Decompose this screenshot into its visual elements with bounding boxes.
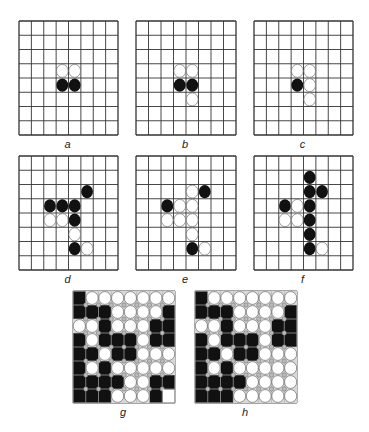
board-caption-b: b [175, 138, 195, 150]
white-stone-icon [246, 362, 258, 375]
white-stone-icon [99, 348, 111, 361]
white-stone-icon [56, 64, 68, 77]
white-stone-icon [137, 376, 149, 389]
white-stone-icon [112, 362, 124, 375]
board-grid [135, 155, 237, 271]
white-stone-icon [163, 362, 175, 375]
white-stone-icon [150, 306, 162, 319]
white-stone-icon [195, 320, 207, 333]
white-stone-icon [272, 348, 284, 361]
white-stone-icon [285, 362, 297, 375]
board-grid [194, 290, 298, 404]
white-stone-icon [86, 320, 98, 333]
white-stone-icon [259, 320, 271, 333]
white-stone-icon [234, 320, 246, 333]
white-stone-icon [86, 362, 98, 375]
board-c [253, 20, 354, 136]
white-stone-icon [124, 376, 136, 389]
board-grid [135, 20, 237, 136]
white-stone-icon [69, 228, 81, 241]
board-caption-c: c [293, 138, 313, 150]
white-stone-icon [186, 199, 198, 212]
white-stone-icon [86, 292, 98, 305]
white-stone-icon [163, 348, 175, 361]
white-stone-icon [124, 306, 136, 319]
board-caption-a: a [58, 138, 78, 150]
white-stone-icon [137, 390, 149, 403]
board-f [253, 155, 354, 271]
white-stone-icon [199, 242, 211, 255]
board-g [72, 290, 176, 404]
white-stone-icon [246, 376, 258, 389]
board-e [135, 155, 237, 271]
white-stone-icon [186, 93, 198, 106]
white-stone-icon [279, 214, 291, 227]
white-stone-icon [112, 390, 124, 403]
black-stone-icon [69, 79, 81, 92]
white-stone-icon [272, 306, 284, 319]
black-stone-icon [81, 185, 93, 198]
white-stone-icon [137, 362, 149, 375]
white-stone-icon [186, 64, 198, 77]
black-stone-icon [316, 185, 328, 198]
white-stone-icon [73, 320, 85, 333]
white-stone-icon [161, 214, 173, 227]
black-stone-icon [304, 199, 316, 212]
white-stone-icon [174, 64, 186, 77]
white-stone-icon [316, 242, 328, 255]
empty-cell [163, 390, 175, 403]
black-stone-icon [69, 199, 81, 212]
white-stone-icon [186, 228, 198, 241]
black-stone-icon [291, 79, 303, 92]
white-stone-icon [272, 376, 284, 389]
white-stone-icon [137, 348, 149, 361]
board-grid [18, 155, 119, 271]
white-stone-icon [174, 214, 186, 227]
black-stone-icon [174, 79, 186, 92]
white-stone-icon [86, 334, 98, 347]
white-stone-icon [150, 292, 162, 305]
white-stone-icon [112, 306, 124, 319]
board-h [194, 290, 298, 404]
white-stone-icon [124, 292, 136, 305]
white-stone-icon [304, 79, 316, 92]
white-stone-icon [44, 214, 56, 227]
white-stone-icon [163, 292, 175, 305]
black-stone-icon [69, 214, 81, 227]
white-stone-icon [81, 242, 93, 255]
board-caption-d: d [58, 273, 78, 285]
black-stone-icon [186, 79, 198, 92]
white-stone-icon [137, 334, 149, 347]
white-stone-icon [150, 362, 162, 375]
black-stone-icon [56, 79, 68, 92]
white-stone-icon [259, 334, 271, 347]
white-stone-icon [304, 64, 316, 77]
white-stone-icon [137, 292, 149, 305]
white-stone-icon [259, 348, 271, 361]
black-stone-icon [304, 214, 316, 227]
white-stone-icon [285, 376, 297, 389]
black-stone-icon [279, 199, 291, 212]
board-caption-g: g [113, 406, 133, 418]
white-stone-icon [221, 348, 233, 361]
board-b [135, 20, 237, 136]
white-stone-icon [208, 334, 220, 347]
white-stone-icon [246, 306, 258, 319]
white-stone-icon [124, 390, 136, 403]
black-stone-icon [44, 199, 56, 212]
black-stone-icon [304, 228, 316, 241]
white-stone-icon [304, 93, 316, 106]
board-grid [72, 290, 176, 404]
black-stone-icon [304, 242, 316, 255]
board-caption-f: f [293, 273, 313, 285]
board-grid [253, 20, 354, 136]
white-stone-icon [56, 214, 68, 227]
white-stone-icon [272, 362, 284, 375]
board-caption-e: e [175, 273, 195, 285]
white-stone-icon [259, 292, 271, 305]
black-stone-icon [161, 199, 173, 212]
white-stone-icon [208, 320, 220, 333]
black-stone-icon [56, 199, 68, 212]
white-stone-icon [259, 362, 271, 375]
board-grid [253, 155, 354, 271]
